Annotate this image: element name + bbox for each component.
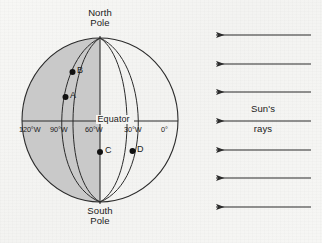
meridian-label-0: 0° — [161, 126, 168, 134]
point-label-b: B — [77, 66, 83, 75]
meridian-label-120w: 120°W — [19, 126, 40, 134]
point-label-d: D — [137, 145, 144, 154]
north-pole-label-line2: Pole — [78, 18, 122, 28]
point-label-a: A — [70, 91, 76, 100]
meridian-label-60w: 60°W — [85, 126, 103, 134]
diagram-page: North Pole South Pole Equator 120°W 90°W… — [0, 0, 322, 243]
meridian-label-30w: 30°W — [124, 126, 142, 134]
south-pole-label: South Pole — [78, 206, 122, 226]
equator-label: Equator — [96, 115, 131, 124]
sun-rays-figure — [0, 0, 322, 243]
sun-rays-label-line1: Sun's — [235, 104, 291, 114]
south-pole-label-line2: Pole — [78, 216, 122, 226]
sun-rays-label-line2: rays — [235, 124, 291, 134]
meridian-label-90w: 90°W — [50, 126, 68, 134]
point-label-c: C — [105, 146, 112, 155]
north-pole-label: North Pole — [78, 8, 122, 28]
